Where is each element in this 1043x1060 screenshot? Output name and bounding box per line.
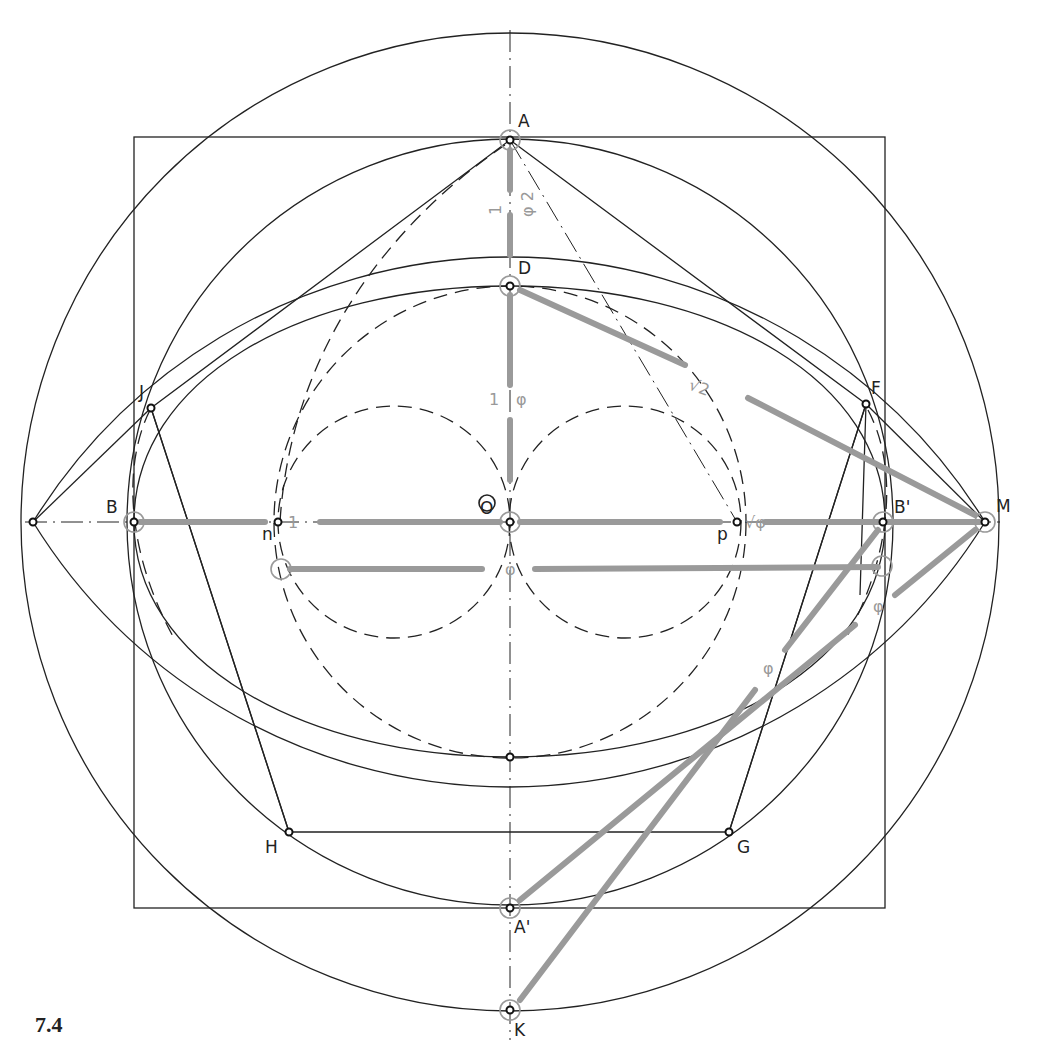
label-B: B bbox=[106, 497, 118, 517]
point-left-tip bbox=[30, 519, 37, 526]
label-n: n bbox=[262, 524, 273, 544]
point-A bbox=[507, 137, 514, 144]
annot-one-mid: 1 bbox=[489, 390, 499, 409]
label-D: D bbox=[518, 258, 531, 278]
annot-sqrt2: √2 bbox=[686, 375, 712, 400]
highlight-M-Aprime bbox=[520, 625, 855, 900]
annot-phi-squared: φ 2 bbox=[518, 191, 537, 217]
label-p: p bbox=[717, 524, 728, 544]
highlight-M-diag bbox=[895, 530, 975, 595]
highlight-D-sqrt2-2 bbox=[748, 398, 975, 515]
label-B-prime: B' bbox=[894, 497, 910, 517]
annot-one-upper: 1 bbox=[486, 205, 505, 215]
point-K bbox=[507, 1007, 514, 1014]
label-O: O bbox=[480, 498, 493, 518]
figure-number: 7.4 bbox=[35, 1012, 63, 1037]
annot-sqrt-phi: √φ bbox=[745, 513, 766, 532]
label-J: J bbox=[138, 382, 144, 402]
point-A-prime bbox=[507, 905, 514, 912]
highlight-D-sqrt2-1 bbox=[520, 290, 685, 365]
point-G bbox=[726, 829, 733, 836]
label-A: A bbox=[518, 111, 530, 131]
label-G: G bbox=[737, 837, 750, 857]
annot-phi-center: φ bbox=[505, 560, 516, 579]
point-n bbox=[275, 519, 282, 526]
line-F-G bbox=[729, 404, 866, 832]
label-H: H bbox=[265, 837, 278, 857]
point-B bbox=[131, 519, 138, 526]
point-H bbox=[286, 829, 293, 836]
point-O bbox=[507, 519, 514, 526]
point-M bbox=[982, 519, 989, 526]
point-D bbox=[507, 283, 514, 290]
point-oval-bottom bbox=[507, 754, 514, 761]
point-J bbox=[148, 405, 155, 412]
label-M: M bbox=[996, 496, 1011, 516]
dashed-arc-A-n bbox=[280, 145, 505, 522]
annot-phi-right-b: φ bbox=[873, 597, 884, 616]
annot-phi-mid: φ bbox=[516, 390, 527, 409]
point-F bbox=[863, 401, 870, 408]
annot-phi-right-a: φ bbox=[763, 659, 774, 678]
highlight-Bp-diag-1 bbox=[785, 530, 878, 650]
label-F: F bbox=[871, 378, 881, 398]
line-J-H bbox=[151, 408, 289, 832]
highlight-lower-right bbox=[535, 567, 878, 569]
label-A-prime: A' bbox=[514, 917, 530, 937]
label-K: K bbox=[514, 1020, 526, 1040]
point-B-prime bbox=[880, 519, 887, 526]
dashdot-line-A-p bbox=[510, 140, 737, 522]
annot-one-left: 1 bbox=[288, 513, 298, 532]
geometric-construction-diagram: A D O B B' M n p J F H G A' K 1 φ 2 1 φ … bbox=[0, 0, 1043, 1060]
point-p bbox=[734, 519, 741, 526]
